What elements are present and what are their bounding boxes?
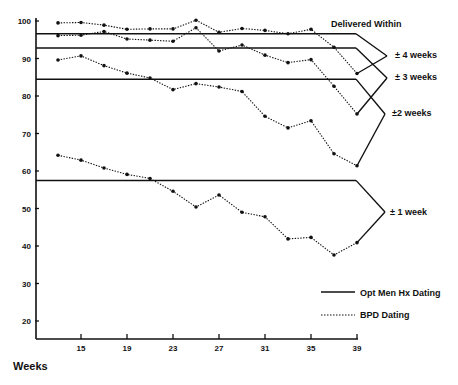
data-point <box>263 29 267 33</box>
data-point <box>309 119 313 123</box>
legend: Opt Men Hx Dating BPD Dating <box>321 288 441 320</box>
y-tick-label: 60 <box>22 167 31 176</box>
data-point <box>79 21 83 25</box>
bracket-label-3wk: ± 3 weeks <box>395 72 437 82</box>
data-point <box>102 30 106 34</box>
x-tick-label: 15 <box>77 344 86 353</box>
line-chart: 203040506070809010015192327313539 Delive… <box>0 0 458 385</box>
data-point <box>171 88 175 92</box>
legend-label-bpd: BPD Dating <box>360 310 410 320</box>
data-point <box>79 33 83 37</box>
bracket-label-1wk: ± 1 week <box>390 207 428 217</box>
data-point <box>263 53 267 57</box>
data-point <box>217 49 221 53</box>
data-point <box>217 85 221 89</box>
y-tick-label: 30 <box>22 280 31 289</box>
data-point <box>56 153 60 157</box>
bracket-arm <box>357 114 385 166</box>
data-point <box>217 193 221 197</box>
data-point <box>56 34 60 38</box>
bracket-connectors <box>356 34 387 243</box>
y-tick-label: 80 <box>22 92 31 101</box>
data-point <box>286 61 290 65</box>
data-point <box>171 39 175 43</box>
legend-label-opt-men: Opt Men Hx Dating <box>360 288 441 298</box>
data-point <box>217 30 221 34</box>
data-point <box>194 18 198 22</box>
data-point <box>194 205 198 209</box>
dotted-line <box>58 155 357 255</box>
data-point <box>125 37 129 41</box>
data-point <box>56 58 60 62</box>
y-tick-label: 90 <box>22 55 31 64</box>
data-point <box>56 21 60 25</box>
data-point <box>194 26 198 30</box>
bracket-label-2wk: ±2 weeks <box>392 108 431 118</box>
bpd-lines <box>56 18 359 256</box>
y-tick-label: 70 <box>22 130 31 139</box>
data-point <box>125 71 129 75</box>
data-point <box>171 27 175 31</box>
data-point <box>148 27 152 31</box>
data-point <box>240 90 244 94</box>
data-point <box>171 189 175 193</box>
data-point <box>309 58 313 62</box>
y-tick-label: 40 <box>22 242 31 251</box>
data-point <box>309 236 313 240</box>
data-point <box>79 54 83 58</box>
x-tick-label: 39 <box>353 344 362 353</box>
data-point <box>286 126 290 130</box>
x-tick-label: 31 <box>261 344 270 353</box>
data-point <box>102 166 106 170</box>
data-point <box>148 76 152 80</box>
data-point <box>79 158 83 162</box>
x-tick-label: 23 <box>169 344 178 353</box>
x-tick-label: 35 <box>307 344 316 353</box>
data-point <box>194 82 198 86</box>
dotted-line <box>58 28 357 114</box>
data-point <box>102 23 106 27</box>
y-tick-label: 20 <box>22 317 31 326</box>
data-point <box>332 45 336 49</box>
bracket-label-4wk: ± 4 weeks <box>395 50 437 60</box>
data-point <box>309 27 313 31</box>
data-point <box>148 177 152 181</box>
legend-title: Delivered Within <box>331 19 401 29</box>
bracket-arm <box>356 180 385 212</box>
bracket-arm <box>357 56 387 74</box>
data-point <box>148 38 152 42</box>
y-tick-label: 100 <box>18 17 32 26</box>
bracket-arm <box>357 212 385 243</box>
x-axis-label: Weeks <box>13 360 48 372</box>
data-point <box>332 84 336 88</box>
data-point <box>102 64 106 68</box>
data-point <box>263 215 267 219</box>
dotted-line <box>58 56 357 166</box>
data-point <box>332 152 336 156</box>
bracket-arm <box>357 78 387 114</box>
data-point <box>240 27 244 31</box>
data-point <box>125 173 129 177</box>
data-point <box>286 32 290 36</box>
bracket-arm <box>356 79 385 114</box>
x-tick-label: 27 <box>215 344 224 353</box>
data-point <box>125 27 129 31</box>
data-point <box>263 114 267 118</box>
axes: 203040506070809010015192327313539 <box>18 17 362 353</box>
opt-men-hx-lines <box>36 34 356 181</box>
data-point <box>332 253 336 257</box>
data-point <box>240 43 244 47</box>
y-tick-label: 50 <box>22 205 31 214</box>
data-point <box>286 237 290 241</box>
x-tick-label: 19 <box>123 344 132 353</box>
data-point <box>240 210 244 214</box>
